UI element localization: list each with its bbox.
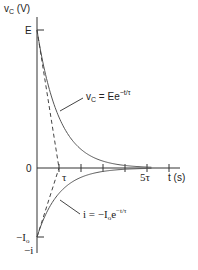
- five-tau-label: 5τ: [140, 171, 151, 183]
- y-axis-label: vC (V): [4, 3, 30, 15]
- vc-tangent-dashed: [37, 30, 59, 168]
- neg-I0-label: −Io: [16, 231, 30, 245]
- E-label: E: [25, 25, 32, 36]
- i-decay-curve: [37, 168, 151, 237]
- tau-label: τ: [62, 171, 67, 183]
- i-leader-line: [60, 200, 80, 214]
- origin-label: 0: [26, 163, 32, 174]
- i-equation: i = −Ioe−t/τ: [83, 207, 127, 222]
- t-axis-label: t (s): [168, 172, 185, 183]
- i-tangent-dashed: [37, 168, 59, 237]
- vc-leader-line: [60, 98, 83, 111]
- vc-equation: vC = Ee−t/τ: [86, 89, 131, 103]
- neg-i-label: −i: [24, 244, 33, 256]
- rc-transient-diagram: vC (V) E 0 τ 5τ t (s) vC = Ee−t/τ i = −I…: [0, 0, 198, 270]
